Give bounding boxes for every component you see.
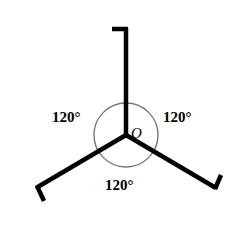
angle-label-right: 120° bbox=[163, 110, 192, 125]
angle-label-bottom: 120° bbox=[105, 178, 134, 193]
vertex-label-o: O bbox=[131, 126, 142, 141]
ray-lower-right bbox=[126, 135, 221, 189]
ray-lower-right-shaft bbox=[126, 135, 216, 188]
angle-label-left: 120° bbox=[52, 110, 81, 125]
ray-lower-left-end-tick bbox=[37, 186, 44, 201]
angle-diagram: 120° 120° 120° O bbox=[0, 0, 246, 225]
ray-up bbox=[112, 28, 128, 135]
ray-lower-right-end-tick bbox=[215, 175, 221, 189]
